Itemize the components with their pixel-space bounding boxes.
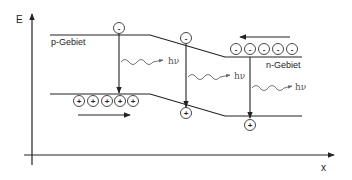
svg-text:-: - bbox=[118, 24, 121, 33]
electron: - bbox=[245, 44, 256, 55]
electron: - bbox=[259, 44, 270, 55]
n-region-electrons: - - - - - bbox=[231, 44, 298, 55]
svg-text:+: + bbox=[118, 97, 123, 106]
hole: + bbox=[128, 96, 139, 107]
svg-text:-: - bbox=[291, 45, 294, 54]
valence-band bbox=[50, 94, 302, 116]
photon-emission: hν bbox=[252, 82, 306, 92]
svg-text:+: + bbox=[131, 97, 136, 106]
electron: - bbox=[231, 44, 242, 55]
n-region-label: n-Gebiet bbox=[266, 60, 301, 70]
photon-emission: hν bbox=[121, 56, 179, 66]
hole: + bbox=[115, 96, 126, 107]
svg-text:+: + bbox=[248, 121, 253, 130]
photon-label: hν bbox=[234, 71, 245, 81]
hole: + bbox=[74, 96, 85, 107]
electron: - bbox=[287, 44, 298, 55]
hole: + bbox=[88, 96, 99, 107]
energy-axis-label: E bbox=[16, 14, 23, 25]
svg-text:+: + bbox=[91, 97, 96, 106]
hole: + bbox=[181, 108, 192, 119]
electron: - bbox=[114, 23, 125, 34]
svg-text:-: - bbox=[185, 34, 188, 43]
p-region-label: p-Gebiet bbox=[51, 37, 86, 47]
photon-label: hν bbox=[168, 56, 179, 66]
svg-text:+: + bbox=[77, 97, 82, 106]
band-diagram: E x p-Gebiet n-Gebiet - - - - - - - + + … bbox=[0, 0, 352, 180]
svg-text:-: - bbox=[277, 45, 280, 54]
photon-label: hν bbox=[295, 82, 306, 92]
hole: + bbox=[102, 96, 113, 107]
svg-text:-: - bbox=[263, 45, 266, 54]
hole: + bbox=[245, 120, 256, 131]
svg-text:-: - bbox=[249, 45, 252, 54]
position-axis-label: x bbox=[321, 162, 326, 173]
photon-emission: hν bbox=[188, 71, 245, 81]
electron: - bbox=[181, 33, 192, 44]
p-region-holes: + + + + + bbox=[74, 96, 139, 107]
svg-text:+: + bbox=[184, 109, 189, 118]
svg-text:+: + bbox=[105, 97, 110, 106]
svg-text:-: - bbox=[235, 45, 238, 54]
electron: - bbox=[273, 44, 284, 55]
